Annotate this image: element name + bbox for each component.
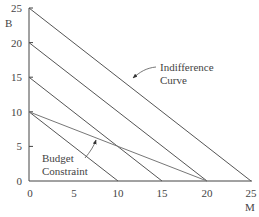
budget-arrow-icon <box>85 140 96 158</box>
svg-text:20: 20 <box>11 37 23 49</box>
svg-text:25: 25 <box>11 2 23 14</box>
chart-canvas: 0 5 10 15 20 25 B 0 5 10 15 20 25 M Indi… <box>0 0 259 217</box>
svg-text:5: 5 <box>17 140 23 152</box>
svg-text:0: 0 <box>27 187 33 199</box>
y-axis-label: B <box>5 17 12 29</box>
x-tick-labels: 0 5 10 15 20 25 <box>27 187 257 199</box>
svg-text:10: 10 <box>11 106 23 118</box>
svg-text:5: 5 <box>71 187 77 199</box>
svg-text:Curve: Curve <box>160 74 187 86</box>
budget-constraint-label: Budget Constraint <box>42 152 88 177</box>
svg-text:Budget: Budget <box>42 152 74 164</box>
svg-text:15: 15 <box>11 71 23 83</box>
y-tick-labels: 0 5 10 15 20 25 <box>11 2 23 187</box>
x-axis-label: M <box>245 201 255 213</box>
svg-text:20: 20 <box>202 187 214 199</box>
svg-text:10: 10 <box>113 187 125 199</box>
svg-text:Indifference: Indifference <box>160 61 214 73</box>
indifference-curve-label: Indifference Curve <box>160 61 214 86</box>
svg-text:0: 0 <box>17 175 23 187</box>
svg-text:Constraint: Constraint <box>42 165 88 177</box>
indifference-arrow-icon <box>133 67 156 78</box>
svg-text:25: 25 <box>246 187 258 199</box>
svg-text:15: 15 <box>157 187 169 199</box>
